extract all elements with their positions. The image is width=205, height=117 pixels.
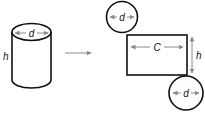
cylinder: d h bbox=[3, 24, 51, 89]
top-circle-diameter-label: d bbox=[119, 12, 125, 23]
bottom-circle-diameter-label: d bbox=[183, 88, 189, 99]
net-bottom-circle: d bbox=[169, 76, 203, 110]
net-rectangle: C h bbox=[127, 35, 202, 75]
cylinder-height-label: h bbox=[3, 51, 9, 62]
net-top-circle: d bbox=[107, 2, 138, 33]
circumference-label: C bbox=[153, 42, 161, 53]
cylinder-diameter-label: d bbox=[29, 28, 35, 39]
cylinder-net: d C h d bbox=[107, 2, 204, 111]
rectangle-height-label: h bbox=[196, 50, 202, 61]
cylinder-net-diagram: d h d C h d bbox=[0, 0, 205, 117]
